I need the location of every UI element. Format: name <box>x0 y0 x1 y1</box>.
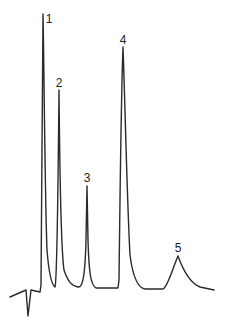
peak-label-3: 3 <box>84 172 91 184</box>
peak-label-5: 5 <box>175 242 182 254</box>
chromatogram-trace <box>10 14 214 316</box>
peak-label-4: 4 <box>120 34 127 46</box>
peak-label-2: 2 <box>56 77 63 89</box>
peak-label-1: 1 <box>46 13 53 25</box>
chromatogram-chart <box>0 0 226 322</box>
